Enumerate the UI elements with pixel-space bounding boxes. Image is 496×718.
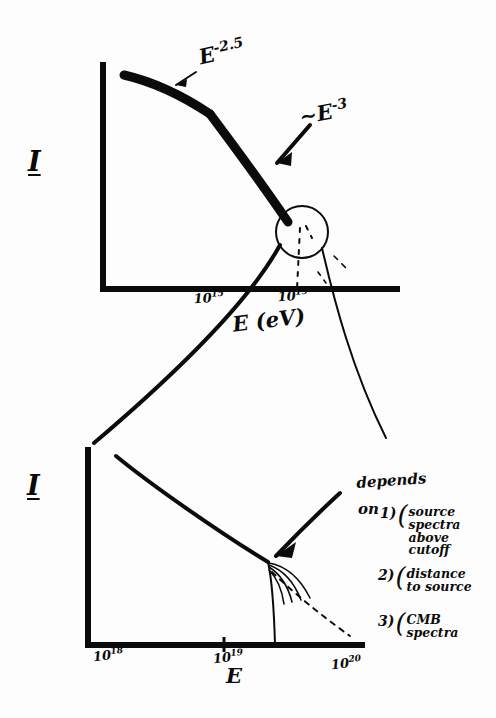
bottom-panel-axes <box>85 447 365 652</box>
callout-item-1-number: 1) <box>380 506 396 520</box>
zoom-line-left <box>94 245 280 443</box>
callout-item-2-line-2: to source <box>407 581 472 594</box>
callout-item-3-paren: ( <box>395 614 405 632</box>
arrow-to-cutoff <box>276 493 340 558</box>
bottom-xtick-1e19-exp: 19 <box>230 647 244 658</box>
top-curve-knee-segment <box>124 75 210 114</box>
callout-item-3-line-2: spectra <box>407 627 459 640</box>
top-y-axis-label: I <box>28 146 41 177</box>
callout-lead2: on <box>358 502 379 518</box>
sketch-page: I E-2.5 ~E-3 1015 1019 E (eV) I 1018 101… <box>0 0 496 718</box>
callout-item-3: 3) ( CMB spectra <box>378 614 496 645</box>
arrow-to-steep-label <box>277 125 310 166</box>
zoom-highlight-circle <box>276 206 328 258</box>
top-xtick-1e15: 1015 <box>193 288 225 306</box>
bottom-curve-powerlaw <box>116 456 268 562</box>
callout-item-3-lines: CMB spectra <box>407 614 459 640</box>
bottom-x-axis-label: E <box>226 663 242 688</box>
callout-item-2: 2) ( distance to source <box>378 568 496 599</box>
top-xtick-1e19-base: 10 <box>277 288 296 304</box>
bottom-y-axis-label: I <box>27 470 40 501</box>
steep-exponent: -3 <box>330 95 348 114</box>
top-panel-axes <box>100 62 400 290</box>
circle-dash-marks <box>306 226 346 283</box>
callout-item-1-paren: ( <box>397 506 407 524</box>
callout-item-2-paren: ( <box>395 568 405 586</box>
top-xtick-1e15-base: 10 <box>193 290 212 306</box>
callout-item-1-line-4: cutoff <box>409 544 461 557</box>
zoom-line-right <box>322 248 386 438</box>
top-spectrum <box>124 75 288 222</box>
callout-item-2-number: 2) <box>378 568 394 582</box>
callout-item-1: 1) ( source spectra above cutoff <box>380 506 496 562</box>
bottom-xtick-1e18: 1018 <box>92 645 124 664</box>
callout-item-3-number: 3) <box>378 614 394 628</box>
top-curve-steep-segment <box>210 114 288 222</box>
top-xtick-1e19: 1019 <box>277 286 309 304</box>
bottom-xtick-1e20-exp: 20 <box>348 653 362 664</box>
callout-item-1-lines: source spectra above cutoff <box>409 506 461 557</box>
arrow-to-knee-label <box>176 72 196 87</box>
bottom-spectrum <box>116 456 350 644</box>
top-xtick-1e15-exp: 15 <box>211 288 224 299</box>
zoom-expansion-lines <box>94 245 386 443</box>
bottom-xtick-1e18-base: 10 <box>92 647 112 664</box>
bottom-xtick-1e20-base: 10 <box>330 655 350 672</box>
bottom-xtick-1e18-exp: 18 <box>110 645 124 656</box>
callout-item-2-lines: distance to source <box>407 568 472 594</box>
top-xtick-1e19-exp: 19 <box>295 286 308 297</box>
sketch-canvas <box>0 0 496 718</box>
bottom-xtick-1e20: 1020 <box>330 653 362 672</box>
